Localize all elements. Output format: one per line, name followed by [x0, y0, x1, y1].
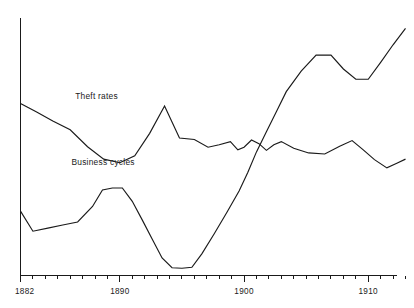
- series-inline-labels: Theft ratesBusiness cycles: [71, 91, 134, 167]
- x-axis-tick-marks: [21, 276, 406, 282]
- series-label-2: Business cycles: [71, 157, 134, 167]
- series-lines-group: [21, 28, 406, 268]
- chart-figure: 1882189019001910 Theft ratesBusiness cyc…: [0, 0, 414, 308]
- line-chart-canvas: 1882189019001910 Theft ratesBusiness cyc…: [0, 0, 414, 308]
- series-line-2: [21, 28, 406, 268]
- x-axis-tick-label: 1882: [15, 287, 35, 296]
- x-axis-tick-label: 1910: [359, 287, 379, 296]
- series-label-1: Theft rates: [75, 91, 118, 101]
- x-axis-tick-label: 1900: [234, 287, 254, 296]
- x-axis-tick-label: 1890: [110, 287, 130, 296]
- x-axis-tick-labels: 1882189019001910: [15, 287, 378, 296]
